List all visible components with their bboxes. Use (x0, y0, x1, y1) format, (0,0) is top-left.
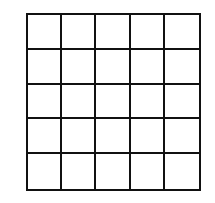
grid-cell (131, 85, 165, 120)
square-grid (26, 13, 201, 191)
grid-cell (131, 154, 165, 189)
grid-cell (131, 119, 165, 154)
grid-cell (96, 15, 130, 50)
grid-cell (28, 119, 62, 154)
grid-cell (131, 15, 165, 50)
grid-cell (131, 50, 165, 85)
grid-cell (96, 50, 130, 85)
grid-cell (165, 15, 199, 50)
grid-cell (165, 50, 199, 85)
grid-cell (62, 50, 96, 85)
grid-cell (96, 85, 130, 120)
grid-cell (28, 85, 62, 120)
grid-cell (96, 154, 130, 189)
grid-cell (96, 119, 130, 154)
grid-cell (28, 15, 62, 50)
grid-cell (62, 154, 96, 189)
grid-cell (28, 50, 62, 85)
grid-cell (165, 154, 199, 189)
grid-cell (165, 119, 199, 154)
grid-cell (62, 15, 96, 50)
grid-cell (165, 85, 199, 120)
grid-cell (28, 154, 62, 189)
grid-cell (62, 119, 96, 154)
grid-cell (62, 85, 96, 120)
